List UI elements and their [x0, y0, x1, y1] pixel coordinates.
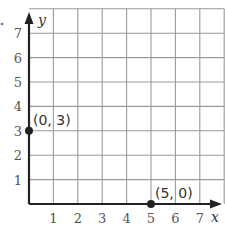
data-point-label: (5, 0) [155, 185, 193, 201]
data-points: (0, 3)(5, 0) [25, 112, 193, 208]
y-tick-label: 1 [14, 173, 22, 188]
x-tick-label: 5 [147, 211, 155, 226]
y-tick-label: 6 [14, 51, 22, 66]
x-tick-label: 2 [74, 211, 82, 226]
x-axis-arrow-icon [210, 200, 222, 209]
y-tick-label: 3 [14, 124, 22, 139]
y-tick-labels: 1234567 [14, 26, 22, 187]
x-tick-label: 1 [49, 211, 57, 226]
x-tick-labels: 1234567 [49, 211, 204, 226]
x-tick-label: 7 [196, 211, 204, 226]
x-tick-label: 6 [171, 211, 179, 226]
data-point-label: (0, 3) [33, 112, 71, 128]
grid-lines [29, 9, 224, 204]
data-point [147, 200, 155, 208]
y-axis-label: y [37, 12, 47, 28]
y-tick-label: 4 [14, 99, 22, 114]
coordinate-plane: 1234567 1234567 x y (0, 3)(5, 0) [0, 0, 225, 237]
x-axis-label: x [211, 209, 219, 225]
y-tick-label: 7 [14, 26, 22, 41]
data-point [25, 127, 33, 135]
x-tick-label: 3 [98, 211, 106, 226]
y-axis-arrow-icon [25, 12, 34, 24]
axes [25, 12, 223, 209]
x-tick-label: 4 [122, 211, 130, 226]
stray-mark [1, 23, 4, 26]
y-tick-label: 2 [14, 148, 22, 163]
y-tick-label: 5 [14, 75, 22, 90]
